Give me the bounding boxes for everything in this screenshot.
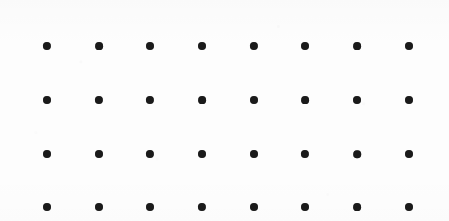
grid-dot	[405, 96, 413, 104]
grid-dot	[353, 150, 361, 158]
grid-dot	[301, 203, 309, 211]
grid-dot	[43, 203, 51, 211]
grid-dot	[43, 150, 51, 158]
grid-dot	[250, 150, 258, 158]
grid-dot	[405, 150, 413, 158]
dot-grid-page	[0, 0, 449, 221]
grid-dot	[146, 150, 154, 158]
grid-dot	[95, 42, 103, 50]
grid-dot	[301, 96, 309, 104]
grid-dot	[146, 42, 154, 50]
grid-dot	[405, 203, 413, 211]
grid-dot	[198, 203, 206, 211]
grid-dot	[250, 42, 258, 50]
grid-dot	[353, 42, 361, 50]
grid-dot	[353, 96, 361, 104]
grid-dot	[250, 203, 258, 211]
grid-dot	[301, 150, 309, 158]
grid-dot	[301, 42, 309, 50]
grid-dot	[405, 42, 413, 50]
grid-dot	[95, 96, 103, 104]
grid-dot	[198, 150, 206, 158]
grid-dot	[43, 42, 51, 50]
grid-dot	[146, 203, 154, 211]
paper-texture	[0, 0, 449, 221]
grid-dot	[146, 96, 154, 104]
grid-dot	[95, 150, 103, 158]
grid-dot	[250, 96, 258, 104]
grid-dot	[198, 96, 206, 104]
grid-dot	[198, 42, 206, 50]
grid-dot	[353, 203, 361, 211]
grid-dot	[43, 96, 51, 104]
grid-dot	[95, 203, 103, 211]
